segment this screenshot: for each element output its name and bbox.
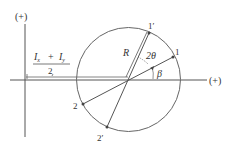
point-1-label: 1	[175, 47, 180, 57]
point-1p	[148, 32, 151, 35]
svg-text:+: +	[48, 51, 54, 62]
point-2-label: 2	[73, 101, 78, 111]
svg-text:Ix: Ix	[33, 51, 40, 63]
svg-text:Iy: Iy	[58, 51, 65, 63]
vertical-axis-label: (+)	[15, 11, 27, 23]
beta-arrow-icon	[150, 66, 154, 70]
angle-2theta-label: 2θ	[146, 50, 156, 61]
angle-beta-label: β	[156, 68, 162, 79]
radius-marker	[126, 32, 147, 77]
radius-label: R	[122, 47, 129, 58]
mohr-circle-diagram: (+) (+) Ix + Iy 2 R 2θ β 1 1′ 2 2′	[0, 0, 234, 146]
center-offset-formula: Ix + Iy 2	[33, 51, 70, 76]
svg-text:2: 2	[48, 66, 53, 76]
point-2p	[106, 126, 109, 129]
horizontal-axis-label: (+)	[209, 75, 221, 87]
point-2p-label: 2′	[97, 133, 104, 143]
point-1p-label: 1′	[148, 21, 155, 31]
point-2	[82, 103, 85, 106]
